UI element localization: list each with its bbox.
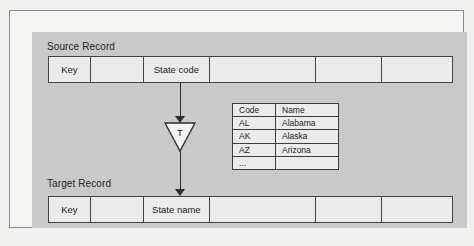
- target-cell-blank-3: [316, 197, 383, 222]
- lookup-row: AL Alabama: [233, 117, 338, 130]
- source-cell-blank-3: [316, 57, 383, 82]
- lookup-row: AZ Arizona: [233, 144, 338, 157]
- target-cell-key: Key: [49, 197, 91, 222]
- source-cell-blank-2: [210, 57, 315, 82]
- figure-frame: Source Record Key State code T Code Name: [9, 10, 464, 228]
- flow-line-transform-to-target: [180, 151, 182, 193]
- source-cell-state-code: State code: [144, 57, 211, 82]
- target-cell-blank-4: [382, 197, 452, 222]
- source-record-row: Key State code: [48, 56, 453, 83]
- source-cell-blank-1: [91, 57, 144, 82]
- lookup-cell-code: AZ: [233, 144, 276, 156]
- target-record-label: Target Record: [47, 178, 111, 189]
- lookup-cell-name-blank: [276, 157, 338, 169]
- lookup-header-name: Name: [276, 104, 338, 116]
- lookup-cell-code: AK: [233, 130, 276, 142]
- lookup-table: Code Name AL Alabama AK Alaska AZ Arizon…: [232, 103, 339, 170]
- lookup-row: AK Alaska: [233, 130, 338, 143]
- lookup-cell-name: Alabama: [276, 117, 338, 129]
- lookup-header-code: Code: [233, 104, 276, 116]
- lookup-header-row: Code Name: [233, 104, 338, 117]
- target-cell-blank-1: [91, 197, 144, 222]
- source-record-label: Source Record: [47, 41, 115, 52]
- lookup-row-ellipsis: ...: [233, 157, 338, 170]
- source-cell-blank-4: [382, 57, 452, 82]
- transform-node: T: [164, 122, 196, 152]
- source-cell-key: Key: [49, 57, 91, 82]
- target-record-row: Key State name: [48, 196, 453, 223]
- lookup-cell-code: AL: [233, 117, 276, 129]
- lookup-cell-name: Alaska: [276, 130, 338, 142]
- scanned-page: Source Record Key State code T Code Name: [0, 0, 474, 246]
- target-cell-state-name: State name: [144, 197, 211, 222]
- lookup-cell-code-ellipsis: ...: [233, 157, 276, 169]
- target-cell-blank-2: [210, 197, 315, 222]
- lookup-cell-name: Arizona: [276, 144, 338, 156]
- down-arrow-icon-into-target: [175, 189, 185, 196]
- transform-node-label: T: [164, 127, 196, 138]
